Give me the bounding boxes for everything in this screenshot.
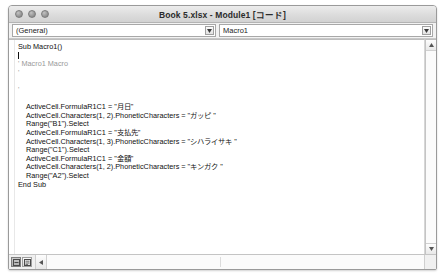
vertical-scrollbar[interactable] — [425, 39, 436, 254]
zoom-button[interactable] — [41, 10, 49, 18]
code-line: Range("A2").Select — [18, 172, 424, 181]
procedure-dropdown[interactable]: Macro1 — [219, 24, 433, 37]
window-controls — [15, 10, 49, 18]
chevron-down-icon[interactable] — [422, 26, 431, 35]
minimize-button[interactable] — [28, 10, 36, 18]
scroll-left-arrow-icon[interactable] — [36, 255, 47, 269]
code-text: Sub Macro1()' Macro1 Macro''ActiveCell.F… — [9, 42, 424, 189]
vba-code-window: Book 5.xlsx - Module1 [コード] (General) Ma… — [8, 5, 437, 270]
horizontal-scrollbar[interactable] — [35, 255, 424, 269]
horizontal-scroll-track[interactable] — [47, 255, 424, 269]
view-mode-buttons — [9, 255, 35, 269]
code-line: Sub Macro1() — [18, 43, 424, 52]
code-line: ' Macro1 Macro — [18, 60, 424, 69]
scroll-up-arrow-icon[interactable] — [426, 40, 436, 51]
object-dropdown[interactable]: (General) — [12, 24, 216, 37]
code-line: ' — [18, 69, 424, 78]
code-line: End Sub — [18, 181, 424, 190]
screenshot-root: Book 5.xlsx - Module1 [コード] (General) Ma… — [0, 0, 445, 276]
window-title: Book 5.xlsx - Module1 [コード] — [9, 8, 436, 20]
horizontal-scroll-thumb-edge — [220, 257, 221, 267]
code-line — [18, 52, 424, 61]
text-cursor — [18, 52, 19, 59]
code-pane-bottombar — [9, 254, 436, 269]
close-button[interactable] — [15, 10, 23, 18]
procedure-view-button[interactable] — [11, 257, 21, 267]
chevron-down-icon[interactable] — [205, 26, 214, 35]
vertical-scroll-track[interactable] — [426, 51, 436, 243]
code-pane: Sub Macro1()' Macro1 Macro''ActiveCell.F… — [9, 39, 436, 254]
procedure-dropdown-value: Macro1 — [223, 25, 248, 36]
full-module-view-button[interactable] — [22, 257, 32, 267]
code-line — [18, 77, 424, 86]
scrollbar-corner — [424, 255, 436, 269]
code-line: ' — [18, 86, 424, 95]
object-dropdown-value: (General) — [16, 25, 48, 36]
scroll-down-arrow-icon[interactable] — [426, 243, 436, 254]
code-editor[interactable]: Sub Macro1()' Macro1 Macro''ActiveCell.F… — [9, 39, 425, 254]
code-pane-toolbar: (General) Macro1 — [9, 23, 436, 39]
window-titlebar[interactable]: Book 5.xlsx - Module1 [コード] — [9, 6, 436, 23]
